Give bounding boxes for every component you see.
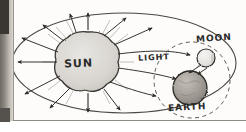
moon-body	[197, 49, 215, 67]
earth-body	[173, 71, 207, 105]
label-sun: SUN	[64, 56, 93, 70]
page-corner-shadow	[0, 108, 10, 122]
page-edge-dark-block	[0, 0, 9, 34]
page-margin-line	[13, 0, 14, 124]
diagram-canvas: SUN LIGHT MOON EARTH	[0, 0, 246, 132]
label-light: LIGHT	[138, 52, 170, 63]
label-earth: EARTH	[168, 101, 207, 113]
page-bottom-rule	[13, 120, 246, 121]
page-bottom-margin	[0, 121, 246, 132]
diagram-drawing	[0, 0, 246, 132]
